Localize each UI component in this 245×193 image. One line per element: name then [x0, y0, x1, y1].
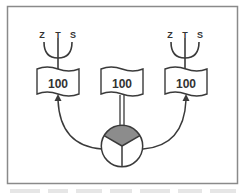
flag-center: 100: [101, 67, 143, 96]
arrow-to-right-flag: [143, 94, 190, 149]
antenna-right: Z T S: [167, 30, 203, 70]
flag-right: 100: [165, 67, 207, 96]
antenna-right-label-s: S: [197, 30, 203, 40]
diagram-canvas: Z T S Z T S 100 100 100: [0, 0, 245, 193]
cutoff-caption-strip: [10, 189, 236, 193]
center-post: [120, 95, 124, 128]
hub-shaded-sector: [104, 125, 140, 146]
flag-center-value: 100: [112, 77, 132, 91]
flag-left: 100: [37, 67, 79, 96]
flag-left-value: 100: [48, 77, 68, 91]
antenna-right-label-z: Z: [167, 30, 173, 40]
arrow-to-left-flag: [55, 94, 103, 149]
antenna-left-label-s: S: [70, 30, 76, 40]
arrow-right-curve: [143, 100, 186, 149]
antenna-left: Z T S: [39, 30, 76, 70]
arrow-left-curve: [58, 100, 102, 149]
hub-circle: [101, 125, 142, 166]
flag-right-value: 100: [176, 77, 196, 91]
antenna-left-label-z: Z: [39, 30, 45, 40]
